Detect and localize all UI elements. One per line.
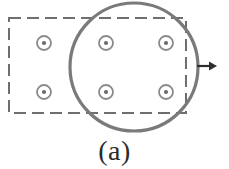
figure-label-a: (a) — [0, 136, 229, 166]
marker-top-center-dot — [104, 41, 108, 45]
marker-bottom-right-dot — [164, 90, 168, 94]
marker-top-right-dot — [164, 41, 168, 45]
marker-bottom-center-dot — [104, 90, 108, 94]
marker-top-left-dot — [42, 41, 46, 45]
figure-container: (a) — [0, 0, 229, 169]
marker-bottom-left-dot — [42, 90, 46, 94]
